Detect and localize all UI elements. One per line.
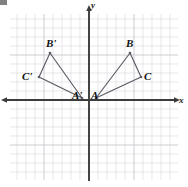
point-label-a-prime: A' bbox=[72, 90, 82, 101]
point-label-b-prime: B' bbox=[46, 38, 56, 49]
x-axis-label: x bbox=[179, 96, 184, 105]
point-label-c-prime: C' bbox=[22, 71, 32, 82]
point-label-a: A bbox=[91, 90, 98, 101]
figure-canvas: x y A B C A' B' C' bbox=[0, 0, 188, 187]
point-label-c: C bbox=[144, 71, 151, 82]
vertex-dots bbox=[38, 52, 143, 100]
y-axis-label: y bbox=[91, 1, 95, 10]
point-label-b: B bbox=[126, 38, 133, 49]
